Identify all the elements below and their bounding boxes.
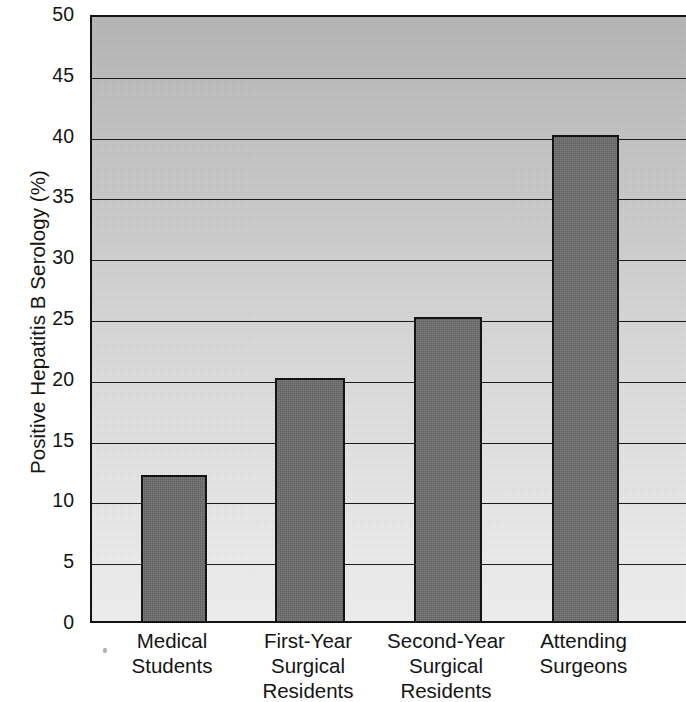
y-axis-tick-label: 30 <box>52 248 74 268</box>
y-axis-tick-label: 50 <box>52 5 74 25</box>
bar <box>275 378 345 621</box>
y-axis-tick-label: 25 <box>52 309 74 329</box>
y-axis-tick-label: 40 <box>52 127 74 147</box>
x-axis-tick-label-line: Attending <box>474 628 686 653</box>
x-axis-tick-labels: MedicalStudentsFirst-YearSurgicalResiden… <box>90 628 686 693</box>
y-axis-tick-label: 45 <box>52 66 74 86</box>
gridline <box>92 78 686 79</box>
y-axis-tick-label: 15 <box>52 431 74 451</box>
y-axis-tick-labels: 05101520253035404550 <box>0 0 84 693</box>
y-axis-tick-label: 35 <box>52 188 74 208</box>
y-axis-tick-label: 10 <box>52 492 74 512</box>
y-axis-tick-label: 20 <box>52 370 74 390</box>
bar <box>141 475 207 621</box>
bar <box>414 317 482 621</box>
x-axis-tick-label-line: Surgeons <box>474 653 686 678</box>
plot-area <box>90 15 686 623</box>
scan-speck <box>103 648 107 653</box>
x-axis-tick-label-line: Residents <box>336 678 556 702</box>
y-axis-tick-label: 5 <box>63 552 74 572</box>
bar <box>552 135 619 621</box>
x-axis-tick-label: AttendingSurgeons <box>474 628 686 678</box>
